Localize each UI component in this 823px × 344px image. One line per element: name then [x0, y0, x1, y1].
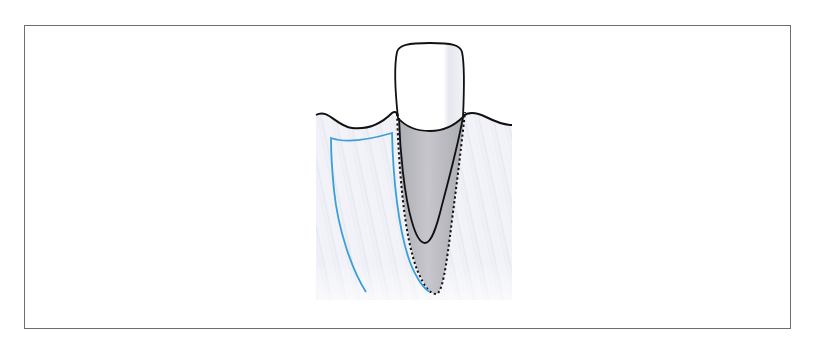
crown — [395, 43, 464, 131]
tooth-diagram — [0, 0, 823, 344]
